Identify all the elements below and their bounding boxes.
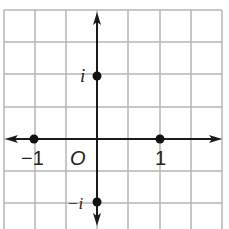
label-one: 1 [155, 147, 166, 169]
complex-plane-svg: i −i 1 −1 O [0, 0, 229, 229]
point-neg-one [30, 135, 39, 144]
label-i: i [80, 65, 85, 86]
label-neg-one: −1 [21, 147, 44, 169]
point-i [93, 72, 102, 81]
point-neg-i [93, 198, 102, 207]
label-origin: O [70, 147, 86, 169]
point-one [156, 135, 165, 144]
complex-plane-diagram: i −i 1 −1 O [0, 0, 229, 229]
label-neg-i: −i [67, 194, 83, 213]
